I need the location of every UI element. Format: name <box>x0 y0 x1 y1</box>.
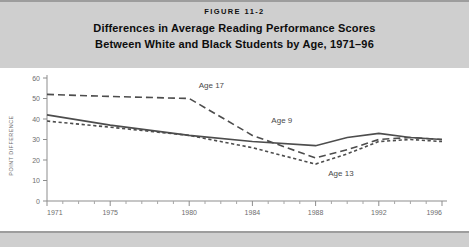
x-tick-labels: 1971197519801984198819921996 <box>47 209 442 216</box>
figure-number: FIGURE 11-2 <box>0 7 469 16</box>
series-line-age-13 <box>47 121 442 164</box>
y-tick-label: 40 <box>32 116 40 123</box>
bottom-band <box>0 231 469 247</box>
y-tick-label: 20 <box>32 157 40 164</box>
x-tick-label: 1980 <box>181 209 197 216</box>
y-tick-label: 10 <box>32 177 40 184</box>
figure-title-line-2: Between White and Black Students by Age,… <box>0 36 469 52</box>
series-label-age-13: Age 13 <box>328 169 354 178</box>
y-tick-label: 50 <box>32 95 40 102</box>
series-label-age-17: Age 17 <box>199 81 225 90</box>
x-tick-label: 1984 <box>245 209 261 216</box>
figure-title-line-1: Differences in Average Reading Performan… <box>0 20 469 36</box>
x-tick-label: 1988 <box>308 209 324 216</box>
y-tick-label: 0 <box>36 198 40 205</box>
y-axis-title: POINT DIFFERENCE <box>8 115 14 175</box>
y-tick-label: 30 <box>32 136 40 143</box>
plot-area: 0102030405060 19711975198019841988199219… <box>0 68 469 233</box>
x-tick-label: 1975 <box>102 209 118 216</box>
series-label-age-9: Age 9 <box>271 116 292 125</box>
chart-series-annotations: Age 17Age 9Age 13 <box>199 81 354 178</box>
x-tick-label: 1996 <box>426 209 442 216</box>
figure-title: Differences in Average Reading Performan… <box>0 20 469 52</box>
y-tick-label: 60 <box>32 75 40 82</box>
y-tick-labels: 0102030405060 <box>32 75 40 205</box>
chart-series-lines <box>47 94 442 164</box>
figure-panel: FIGURE 11-2 Differences in Average Readi… <box>0 0 469 247</box>
x-tick-label: 1971 <box>47 209 63 216</box>
x-tick-label: 1992 <box>371 209 387 216</box>
line-chart: 0102030405060 19711975198019841988199219… <box>0 68 469 233</box>
